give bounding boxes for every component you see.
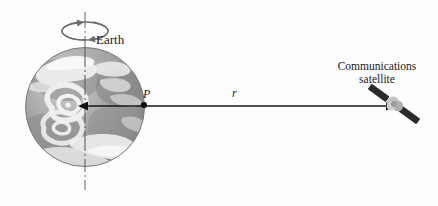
satellite-label-line2: satellite (359, 73, 395, 85)
orbit-radius-label: r (232, 87, 237, 100)
satellite-label-line1: Communications (338, 60, 417, 72)
satellite-label: Communications satellite (325, 60, 429, 86)
earth-label: Earth (96, 33, 124, 48)
point-p-label: P (143, 88, 150, 101)
communications-satellite-diagram: Earth P r Communications satellite (0, 0, 438, 206)
diagram-canvas (0, 0, 438, 206)
communications-satellite (368, 84, 421, 125)
point-p-marker (141, 102, 147, 108)
